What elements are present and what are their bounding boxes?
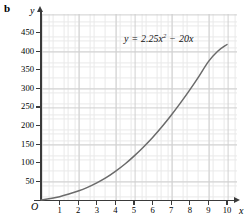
parabola-curve [41, 45, 227, 201]
equation-lin-var: x [189, 33, 193, 44]
equation-lhs: y [124, 33, 128, 44]
equation-quad-coef: 2.25 [141, 33, 159, 44]
equation-exponent: 2 [163, 32, 166, 39]
equation-equals: = [131, 33, 139, 44]
equation-lin-coef: 20 [179, 33, 189, 44]
equation-annotation: y = 2.25x2 − 20x [124, 33, 193, 44]
equation-minus: − [169, 33, 177, 44]
figure-panel: b y x O 50100150200250300350400450123456… [0, 0, 249, 223]
